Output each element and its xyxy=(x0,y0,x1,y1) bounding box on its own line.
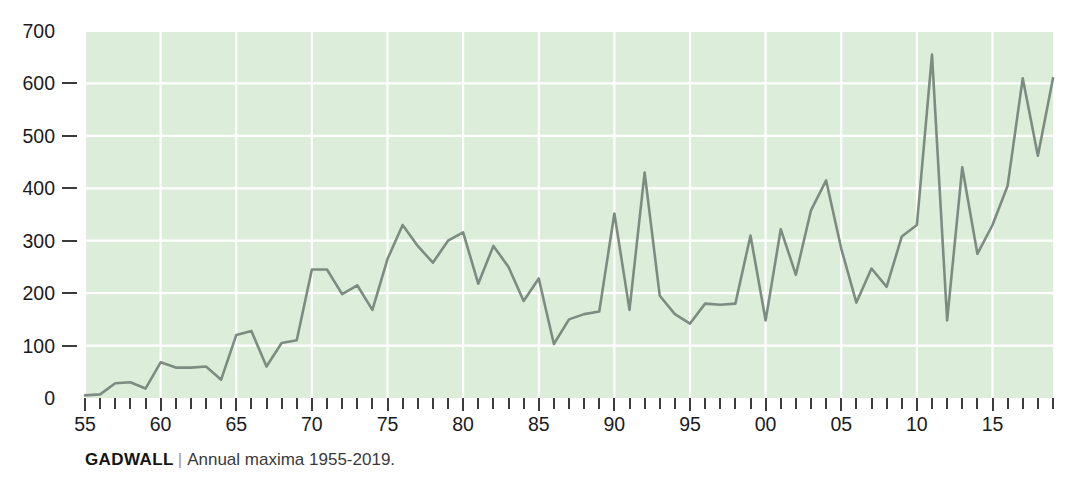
chart-figure: 0100200300400500600700 55606570758085909… xyxy=(0,0,1086,488)
x-tick-mark-minor xyxy=(523,398,525,409)
x-tick-mark-minor xyxy=(704,398,706,409)
x-tick-mark-minor xyxy=(976,398,978,409)
x-tick-mark-minor xyxy=(901,398,903,409)
data-line-annual-maxima xyxy=(85,31,1053,398)
x-tick-mark-major xyxy=(160,398,162,411)
x-tick-mark-minor xyxy=(356,398,358,409)
x-tick-mark-minor xyxy=(553,398,555,409)
x-tick-label: 95 xyxy=(679,413,701,436)
x-tick-mark-minor xyxy=(961,398,963,409)
x-tick-mark-major xyxy=(462,398,464,411)
x-tick-mark-minor xyxy=(1037,398,1039,409)
x-axis-ticks xyxy=(85,398,1053,412)
x-tick-mark-minor xyxy=(220,398,222,409)
x-tick-mark-minor xyxy=(326,398,328,409)
x-tick-mark-minor xyxy=(250,398,252,409)
x-tick-mark-minor xyxy=(946,398,948,409)
y-tick-mark xyxy=(62,82,77,84)
x-tick-mark-minor xyxy=(296,398,298,409)
x-tick-mark-major xyxy=(235,398,237,411)
x-tick-mark-major xyxy=(689,398,691,411)
x-tick-label: 70 xyxy=(301,413,323,436)
x-tick-mark-major xyxy=(765,398,767,411)
figure-caption: GADWALL|Annual maxima 1955-2019. xyxy=(85,450,395,470)
y-tick-mark xyxy=(62,240,77,242)
x-tick-mark-minor xyxy=(780,398,782,409)
x-tick-mark-minor xyxy=(281,398,283,409)
x-tick-mark-major xyxy=(84,398,86,411)
y-tick-mark xyxy=(62,187,77,189)
x-tick-mark-minor xyxy=(1022,398,1024,409)
x-tick-mark-minor xyxy=(266,398,268,409)
x-tick-mark-minor xyxy=(795,398,797,409)
y-tick-mark xyxy=(62,292,77,294)
caption-description: Annual maxima 1955-2019. xyxy=(187,450,395,469)
x-tick-mark-minor xyxy=(855,398,857,409)
x-tick-mark-minor xyxy=(810,398,812,409)
x-tick-label: 60 xyxy=(150,413,172,436)
x-tick-mark-minor xyxy=(931,398,933,409)
x-tick-mark-major xyxy=(992,398,994,411)
x-tick-mark-minor xyxy=(508,398,510,409)
x-tick-mark-minor xyxy=(114,398,116,409)
x-tick-mark-minor xyxy=(129,398,131,409)
x-tick-mark-major xyxy=(840,398,842,411)
x-tick-label: 75 xyxy=(377,413,399,436)
y-tick-mark xyxy=(62,345,77,347)
x-tick-mark-minor xyxy=(644,398,646,409)
x-tick-label: 65 xyxy=(225,413,247,436)
x-tick-mark-minor xyxy=(583,398,585,409)
x-tick-mark-minor xyxy=(205,398,207,409)
x-tick-label: 85 xyxy=(528,413,550,436)
x-tick-mark-minor xyxy=(1052,398,1054,409)
x-tick-label: 10 xyxy=(906,413,928,436)
x-tick-mark-minor xyxy=(825,398,827,409)
y-axis-ticks xyxy=(0,0,85,488)
x-tick-mark-minor xyxy=(674,398,676,409)
x-tick-mark-minor xyxy=(629,398,631,409)
x-tick-mark-minor xyxy=(477,398,479,409)
x-tick-mark-minor xyxy=(886,398,888,409)
x-tick-mark-minor xyxy=(750,398,752,409)
x-tick-mark-minor xyxy=(341,398,343,409)
x-tick-label: 15 xyxy=(982,413,1004,436)
x-tick-mark-minor xyxy=(659,398,661,409)
x-tick-mark-minor xyxy=(371,398,373,409)
x-tick-mark-minor xyxy=(402,398,404,409)
x-tick-mark-minor xyxy=(145,398,147,409)
x-tick-mark-minor xyxy=(734,398,736,409)
x-tick-label: 00 xyxy=(755,413,777,436)
x-tick-mark-major xyxy=(311,398,313,411)
y-tick-mark xyxy=(62,135,77,137)
x-tick-label: 90 xyxy=(604,413,626,436)
x-tick-mark-major xyxy=(387,398,389,411)
x-tick-mark-minor xyxy=(568,398,570,409)
caption-species: GADWALL xyxy=(85,450,174,469)
x-tick-label: 80 xyxy=(452,413,474,436)
x-tick-mark-minor xyxy=(432,398,434,409)
x-tick-mark-minor xyxy=(190,398,192,409)
x-tick-mark-minor xyxy=(99,398,101,409)
x-tick-mark-major xyxy=(613,398,615,411)
plot-area xyxy=(85,31,1053,398)
caption-separator: | xyxy=(178,450,182,469)
x-tick-mark-minor xyxy=(175,398,177,409)
x-tick-mark-major xyxy=(916,398,918,411)
x-tick-mark-major xyxy=(538,398,540,411)
x-tick-mark-minor xyxy=(417,398,419,409)
x-tick-mark-minor xyxy=(447,398,449,409)
x-tick-label: 55 xyxy=(74,413,96,436)
x-tick-mark-minor xyxy=(719,398,721,409)
x-tick-mark-minor xyxy=(871,398,873,409)
x-tick-label: 05 xyxy=(830,413,852,436)
x-tick-mark-minor xyxy=(1007,398,1009,409)
x-tick-mark-minor xyxy=(598,398,600,409)
x-tick-mark-minor xyxy=(492,398,494,409)
x-axis-labels: 55606570758085909500051015 xyxy=(85,413,1053,441)
